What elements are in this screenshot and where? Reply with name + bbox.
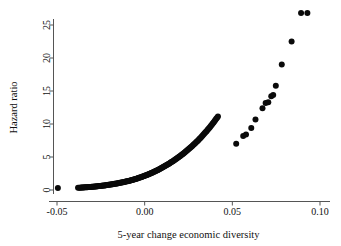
- y-axis-tick-label: 5: [41, 155, 52, 160]
- data-point: [298, 10, 304, 16]
- data-point: [289, 39, 295, 45]
- hazard-ratio-scatter-figure: 0510152025-0.050.000.050.105-year change…: [0, 0, 341, 246]
- data-point: [248, 125, 254, 131]
- data-point: [233, 141, 239, 147]
- y-axis-tick-label: 10: [41, 119, 52, 129]
- data-point: [304, 10, 310, 16]
- y-axis-tick-label: 0: [41, 188, 52, 193]
- data-point: [279, 62, 285, 68]
- data-point: [265, 99, 271, 105]
- x-axis-title: 5-year change economic diversity: [118, 229, 261, 240]
- data-point: [273, 83, 279, 89]
- x-axis-tick-label: 0.05: [224, 206, 242, 217]
- y-axis-tick-label: 25: [41, 20, 52, 30]
- data-point: [215, 113, 221, 119]
- y-axis-tick-label: 15: [41, 86, 52, 96]
- axis-label-layer: 0510152025-0.050.000.050.105-year change…: [8, 20, 329, 240]
- scatter-plot-svg: 0510152025-0.050.000.050.105-year change…: [0, 0, 341, 246]
- x-axis-tick-label: 0.00: [136, 206, 154, 217]
- y-axis-title: Hazard ratio: [8, 81, 19, 133]
- data-point: [270, 92, 276, 98]
- data-point-layer: [55, 10, 311, 191]
- plot-axes: [49, 19, 330, 206]
- data-point: [55, 185, 61, 191]
- y-axis-tick-label: 20: [41, 53, 52, 63]
- x-axis-tick-label: -0.05: [47, 206, 68, 217]
- x-axis-tick-label: 0.10: [311, 206, 329, 217]
- data-point: [259, 105, 265, 111]
- data-point: [252, 116, 258, 122]
- data-point: [243, 132, 249, 138]
